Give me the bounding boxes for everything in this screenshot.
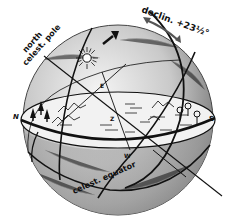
celestial-sphere-diagram: north celest. pole declin. +23½° celest.… — [0, 0, 225, 224]
west-label: W — [124, 152, 131, 159]
sun-icon — [76, 47, 98, 69]
north-label: N — [13, 113, 19, 121]
south-label: S — [209, 115, 214, 123]
diagram-canvas: north celest. pole declin. +23½° celest.… — [0, 0, 225, 224]
zenith-label: Z — [110, 115, 115, 122]
east-label: E — [100, 82, 104, 89]
